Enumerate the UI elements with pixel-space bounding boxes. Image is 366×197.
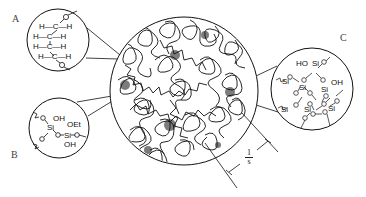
svg-text:Si: Si <box>281 105 288 114</box>
dimension-label: 1 s <box>244 149 254 166</box>
svg-text:HO: HO <box>296 59 308 68</box>
svg-text:H—C—H: H—C—H <box>38 52 72 61</box>
svg-text:H—C—H: H—C—H <box>39 22 73 31</box>
svg-text:OH: OH <box>53 114 65 123</box>
svg-text:Si: Si <box>299 83 306 92</box>
inset-b-circle: Si Si OH OEt OH <box>29 98 89 158</box>
svg-text:H—C—H: H—C—H <box>33 32 67 41</box>
dimension-numerator: 1 <box>247 148 251 157</box>
svg-text:Si: Si <box>312 59 319 68</box>
diagram-canvas: H—C—H H—C—H H—C—H H—C—H Si Si OH OEt OH <box>0 0 366 197</box>
svg-text:Si: Si <box>328 104 335 113</box>
main-circle <box>110 17 258 168</box>
svg-text:Si: Si <box>64 131 71 140</box>
svg-text:OH: OH <box>331 78 343 87</box>
svg-text:Si: Si <box>304 105 311 114</box>
label-c: C <box>340 32 347 43</box>
label-a: A <box>12 13 19 24</box>
inset-a-circle: H—C—H H—C—H H—C—H H—C—H <box>27 9 89 71</box>
inset-c-circle: Si Si Si Si Si Si Si HO OH <box>271 48 353 130</box>
svg-text:OH: OH <box>64 140 76 149</box>
svg-text:Si: Si <box>321 85 328 94</box>
dimension-denominator: s <box>247 157 250 166</box>
svg-text:OEt: OEt <box>67 120 82 129</box>
label-b: B <box>11 149 18 160</box>
svg-text:Si: Si <box>282 77 289 86</box>
connector-a <box>86 28 120 59</box>
svg-text:H—C—H: H—C—H <box>33 42 67 51</box>
svg-text:Si: Si <box>47 123 54 132</box>
